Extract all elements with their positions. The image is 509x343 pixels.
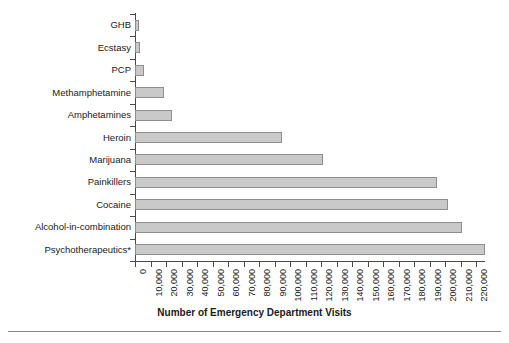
bar [135,65,144,76]
chart-figure: GHBEcstasyPCPMethamphetamineAmphetamines… [0,0,509,343]
y-axis-tick-label: Marijuana [3,154,131,165]
bar-row [135,239,485,261]
x-axis-tick-label: 40,000 [201,269,210,297]
y-axis-tick-label: Alcohol-in-combination [3,221,131,232]
x-axis-tick-label: 120,000 [325,269,334,302]
x-axis-tick [275,262,276,267]
x-axis-tick [213,262,214,267]
bar-row [135,216,462,238]
bar [135,154,323,165]
bar [135,20,139,31]
bar-row [135,104,172,126]
y-axis-tick [130,126,135,127]
y-axis-tick [130,194,135,195]
x-axis-tick [244,262,245,267]
x-axis-tick [445,262,446,267]
bar-row [135,171,437,193]
bar-row [135,126,282,148]
footer-divider [8,331,501,332]
bar [135,222,462,233]
x-axis-tick [166,262,167,267]
x-axis-tick-label: 110,000 [310,269,319,301]
plot-area [135,14,484,261]
x-axis-tick-label: 170,000 [403,269,412,302]
x-axis-tick [430,262,431,267]
y-axis-tick [130,171,135,172]
y-axis-tick [130,239,135,240]
x-axis-tick [399,262,400,267]
y-axis-tick [130,81,135,82]
y-axis-tick-label: PCP [3,64,131,75]
x-axis-tick [290,262,291,267]
y-axis-tick [130,261,135,262]
bar [135,42,140,53]
x-axis-tick-label: 210,000 [465,269,474,302]
bar [135,177,437,188]
x-axis-title: Number of Emergency Department Visits [0,307,509,318]
x-axis-tick-label: 100,000 [294,269,303,302]
bar [135,244,485,255]
x-axis-tick [135,262,136,267]
x-axis-tick-label: 190,000 [434,269,443,302]
x-axis-tick [321,262,322,267]
bar [135,87,164,98]
y-axis-tick-label: Methamphetamine [3,87,131,98]
x-axis-tick [414,262,415,267]
x-axis-tick-label: 140,000 [356,269,365,302]
x-axis-tick-label: 90,000 [279,269,288,297]
x-axis-tick [337,262,338,267]
x-axis-tick [197,262,198,267]
bar-row [135,81,164,103]
y-axis-tick-label: Amphetamines [3,109,131,120]
y-axis-tick-label: Cocaine [3,199,131,210]
y-axis-tick-label: Psychotherapeutics* [3,244,131,255]
y-axis-tick-label: Heroin [3,132,131,143]
x-axis-tick-label: 10,000 [155,269,164,297]
y-axis-tick [130,59,135,60]
x-axis-tick-label: 0 [139,269,148,274]
y-axis-labels: GHBEcstasyPCPMethamphetamineAmphetamines… [0,14,131,261]
y-axis-tick-label: Painkillers [3,176,131,187]
x-axis-tick [461,262,462,267]
y-axis-tick [130,216,135,217]
x-axis-tick [476,262,477,267]
bar [135,199,448,210]
x-axis-tick [228,262,229,267]
y-axis-tick [130,104,135,105]
x-axis-tick [182,262,183,267]
y-axis-tick [130,14,135,15]
x-axis-line [135,261,485,262]
y-axis-tick-label: Ecstasy [3,42,131,53]
x-axis-tick-label: 60,000 [232,269,241,297]
bar-row [135,14,139,36]
bar-row [135,149,323,171]
x-axis-tick [383,262,384,267]
y-axis-tick [130,36,135,37]
x-axis-tick-label: 70,000 [248,269,257,297]
bar-row [135,59,144,81]
x-axis-tick-label: 180,000 [418,269,427,302]
x-axis-tick [352,262,353,267]
x-axis-tick-label: 20,000 [170,269,179,297]
x-axis-tick [368,262,369,267]
x-axis-tick-label: 30,000 [186,269,195,297]
x-axis-tick [259,262,260,267]
y-axis-tick [130,149,135,150]
x-axis-tick-label: 150,000 [372,269,381,302]
y-axis-tick-label: GHB [3,19,131,30]
x-axis-tick-label: 130,000 [341,269,350,302]
x-axis-tick-label: 200,000 [449,269,458,302]
bar [135,132,282,143]
bar [135,110,172,121]
x-axis-tick-label: 160,000 [387,269,396,302]
bar-row [135,194,448,216]
x-axis-tick-label: 220,000 [480,269,489,302]
x-axis-tick-label: 50,000 [217,269,226,297]
x-axis-tick-label: 80,000 [263,269,272,297]
x-axis-tick [306,262,307,267]
x-axis-tick [151,262,152,267]
bar-row [135,36,140,58]
